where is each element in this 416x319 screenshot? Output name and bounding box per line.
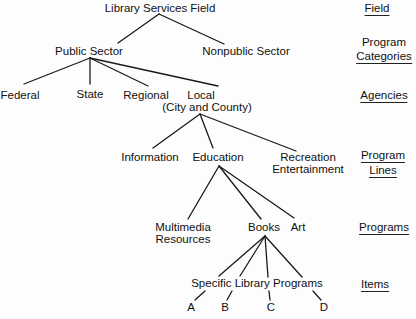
node-regional: Regional — [123, 89, 168, 101]
level-label-program-lines-line2: Lines — [369, 164, 397, 178]
level-label-items: Items — [361, 277, 389, 292]
level-label-programs: Programs — [359, 220, 409, 235]
node-local: Local — [187, 89, 215, 101]
node-nonpublic-sector: Nonpublic Sector — [202, 45, 290, 57]
level-label-program-lines-line1: Program — [361, 149, 405, 163]
node-local-subtitle: (City and County) — [162, 101, 251, 113]
level-label-agencies: Agencies — [360, 88, 407, 103]
level-label-program-categories: Program Categories — [356, 35, 412, 64]
node-item-c: C — [267, 301, 275, 313]
node-education: Education — [192, 151, 243, 163]
level-label-program-lines: Program Lines — [361, 148, 405, 178]
node-books: Books — [248, 221, 280, 233]
node-art: Art — [291, 221, 306, 233]
node-federal: Federal — [1, 89, 40, 101]
node-item-d: D — [320, 301, 328, 313]
node-state: State — [77, 88, 104, 100]
level-label-field: Field — [365, 1, 390, 16]
node-multimedia: Multimedia — [155, 221, 211, 233]
node-library-services-field: Library Services Field — [105, 2, 216, 14]
level-label-program-categories-line2: Categories — [356, 50, 412, 64]
node-specific-library-programs: Specific Library Programs — [191, 277, 323, 289]
node-item-b: B — [221, 301, 229, 313]
node-entertainment: Entertainment — [272, 163, 344, 175]
node-recreation: Recreation — [280, 151, 336, 163]
node-public-sector: Public Sector — [55, 45, 123, 57]
level-label-program-categories-line1: Program — [356, 35, 412, 49]
node-resources: Resources — [156, 233, 211, 245]
node-item-a: A — [187, 301, 195, 313]
node-information: Information — [121, 151, 179, 163]
